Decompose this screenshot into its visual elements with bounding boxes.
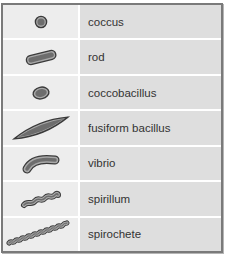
shape-label: fusiform bacillus <box>80 111 221 144</box>
table-row: coccus <box>3 5 221 40</box>
table-row: spirillum <box>3 182 221 217</box>
shape-label: coccus <box>80 5 221 38</box>
bacteria-shapes-table: coccus rod coccobacillus <box>1 3 223 253</box>
table-row: coccobacillus <box>3 76 221 111</box>
rod-icon <box>24 49 58 65</box>
shape-cell <box>3 111 80 144</box>
shape-cell <box>3 40 80 73</box>
table-row: rod <box>3 40 221 75</box>
shape-label: spirillum <box>80 182 221 215</box>
fusiform-bacillus-icon <box>11 115 71 141</box>
shape-cell <box>3 76 80 109</box>
shape-label: vibrio <box>80 147 221 180</box>
table-row: fusiform bacillus <box>3 111 221 146</box>
shape-label: rod <box>80 40 221 73</box>
shape-label: spirochete <box>80 218 221 251</box>
shape-cell <box>3 5 80 38</box>
shape-cell <box>3 182 80 215</box>
table-row: vibrio <box>3 147 221 182</box>
spirillum-icon <box>21 189 61 209</box>
shape-cell <box>3 218 80 251</box>
coccus-icon <box>34 15 48 29</box>
shape-cell <box>3 147 80 180</box>
coccobacillus-icon <box>31 85 51 101</box>
spirochete-icon <box>6 221 76 247</box>
table-row: spirochete <box>3 218 221 251</box>
vibrio-icon <box>23 153 59 173</box>
shape-label: coccobacillus <box>80 76 221 109</box>
